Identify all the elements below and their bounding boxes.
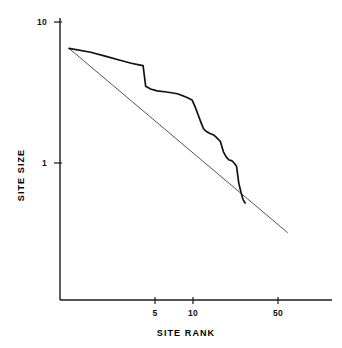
chart-container: 10 1 5 10 50 SITE SIZE SITE RANK <box>0 0 342 348</box>
x-tick-label-50: 50 <box>273 308 283 318</box>
x-tick-label-10: 10 <box>188 308 198 318</box>
chart-background <box>0 0 342 348</box>
y-axis-title: SITE SIZE <box>16 149 26 201</box>
y-tick-label-1: 1 <box>42 158 47 168</box>
x-tick-label-5: 5 <box>152 308 157 318</box>
x-axis-title: SITE RANK <box>157 328 215 338</box>
chart-svg: 10 1 5 10 50 SITE SIZE SITE RANK <box>0 0 342 348</box>
y-tick-label-10: 10 <box>37 17 47 27</box>
